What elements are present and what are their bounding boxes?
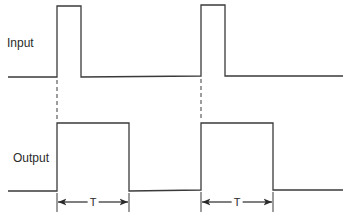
period-label-1: T xyxy=(88,196,99,208)
output-waveform xyxy=(8,123,343,191)
output-label: Output xyxy=(13,151,49,165)
timing-diagram xyxy=(0,0,350,220)
period-label-2: T xyxy=(232,196,243,208)
input-waveform xyxy=(8,5,343,77)
input-label: Input xyxy=(7,36,34,50)
